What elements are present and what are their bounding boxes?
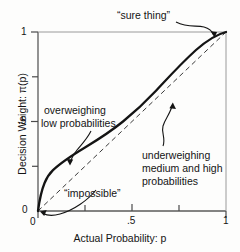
sure-thing-label: “sure thing” xyxy=(117,10,170,22)
probability-weighting-figure: Decision Weight: π(p) 1 .5 0 0 .5 1 Actu… xyxy=(0,0,240,252)
y-tick-label-0: 0 xyxy=(22,204,28,215)
overweighing-arrow xyxy=(67,131,91,166)
chart-canvas xyxy=(0,0,240,252)
impossible-label: “impossible” xyxy=(64,188,121,200)
underweighing-label-line1: underweighing xyxy=(142,150,210,162)
sure-thing-arrow xyxy=(176,22,217,38)
y-axis-ticks xyxy=(31,32,38,166)
x-tick-label-1: 1 xyxy=(223,215,229,226)
underweighing-label-line2: medium and high xyxy=(142,163,223,175)
x-tick-label-0: 0 xyxy=(30,216,36,227)
y-tick-label-05: .5 xyxy=(18,115,26,126)
y-tick-label-1: 1 xyxy=(21,26,27,37)
overweighing-label-line1: overweighing xyxy=(44,105,106,117)
underweighing-arrow xyxy=(163,103,176,147)
x-tick-label-05: .5 xyxy=(127,215,135,226)
underweighing-label-line3: probabilities xyxy=(142,176,198,188)
overweighing-label-line2: low probabilities xyxy=(41,118,116,130)
x-axis-title: Actual Probability: p xyxy=(0,233,240,245)
